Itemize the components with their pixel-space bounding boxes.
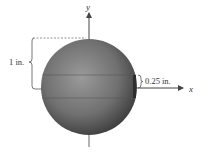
hole-brace <box>138 75 143 88</box>
radius-label: 1 in. <box>9 57 24 67</box>
sphere <box>41 39 137 135</box>
sphere-diagram: y x 1 in. 0.25 in. <box>0 0 207 153</box>
y-axis-label: y <box>85 2 90 12</box>
hole-opening <box>133 75 136 98</box>
hole-label: 0.25 in. <box>145 76 171 86</box>
x-axis-label: x <box>188 84 193 94</box>
radius-brace <box>29 38 42 89</box>
